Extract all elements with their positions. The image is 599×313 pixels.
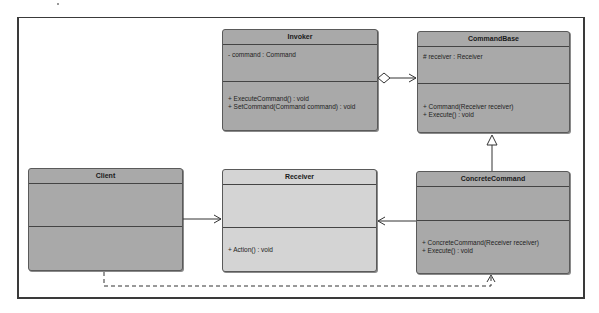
generalization-connector	[487, 135, 497, 171]
client-concrete-dependency	[104, 272, 495, 286]
inheritance-triangle-icon	[487, 135, 497, 145]
concrete-receiver-association	[378, 217, 416, 225]
aggregation-diamond-icon	[378, 73, 390, 83]
client-receiver-association	[183, 215, 221, 223]
relationship-lines	[0, 0, 599, 313]
aggregation-connector	[378, 73, 416, 83]
